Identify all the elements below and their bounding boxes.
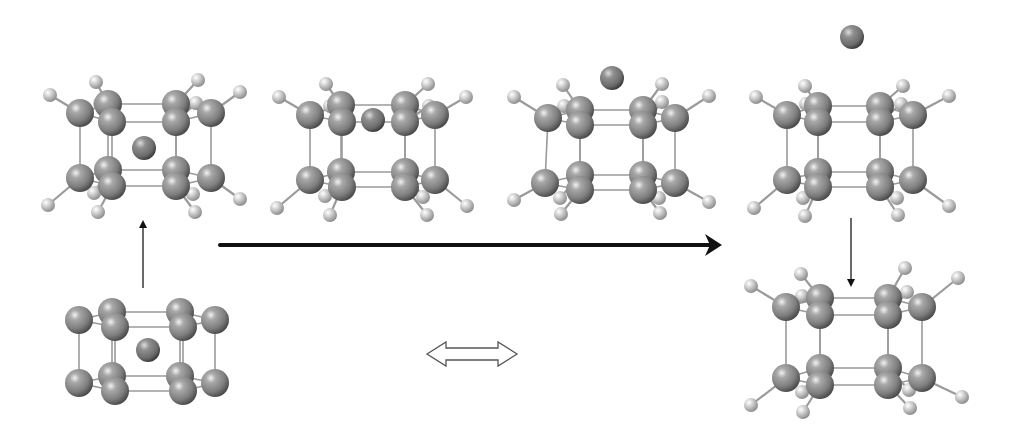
hydrogen-atom — [554, 207, 568, 221]
double-headed-arrow-icon — [427, 342, 517, 366]
carbon-atom — [534, 104, 562, 132]
atoms — [41, 73, 247, 219]
molecule-s2-ion-in-face — [270, 77, 474, 222]
molecule-s4-ion-outside — [747, 25, 956, 223]
carbon-atom — [804, 173, 832, 201]
hydrogen-atom — [896, 79, 910, 93]
hydrogen-atom — [191, 73, 205, 87]
molecule-s3-ion-above — [507, 66, 716, 221]
hydrogen-atom — [747, 201, 761, 215]
hydrogen-atom — [744, 398, 758, 412]
molecule-s6-ion-inside-bare — [65, 298, 229, 405]
hydrogen-atom — [41, 198, 55, 212]
hydrogen-atom — [891, 208, 905, 222]
hydrogen-atom — [507, 193, 521, 207]
carbon-atom — [566, 111, 594, 139]
hydrogen-atom — [744, 279, 758, 293]
carbon-atom — [806, 301, 834, 329]
carbon-atom — [169, 313, 197, 341]
hydrogen-atom — [556, 78, 570, 92]
carbon-atom — [806, 371, 834, 399]
hydrogen-atom — [421, 77, 435, 91]
carbon-atom — [629, 176, 657, 204]
carbon-atom — [804, 108, 832, 136]
hydrogen-atom — [507, 90, 521, 104]
up-arrowhead-icon — [139, 220, 147, 228]
carbon-atom — [98, 172, 126, 200]
carbon-atom — [65, 369, 93, 397]
carbon-atom — [66, 164, 94, 192]
hydrogen-atom — [460, 199, 474, 213]
carbon-atom — [391, 173, 419, 201]
carbon-atom — [162, 108, 190, 136]
hydrogen-atom — [798, 209, 812, 223]
carbon-atom — [421, 166, 449, 194]
carbon-atom — [773, 166, 801, 194]
atoms — [65, 298, 229, 405]
carbon-atom — [866, 173, 894, 201]
carbon-atom — [874, 371, 902, 399]
ion-atom — [840, 25, 864, 49]
carbon-atom — [169, 377, 197, 405]
ion-atom — [361, 108, 385, 132]
down-arrowhead-icon — [847, 279, 855, 287]
carbon-atom — [874, 301, 902, 329]
carbon-atom — [908, 293, 936, 321]
hydrogen-atom — [702, 89, 716, 103]
carbon-atom — [328, 108, 356, 136]
reaction-diagram — [0, 0, 1013, 436]
hydrogen-atom — [653, 206, 667, 220]
hydrogen-atom — [188, 205, 202, 219]
hydrogen-atom — [420, 208, 434, 222]
ion-atom — [600, 66, 624, 90]
carbon-atom — [899, 166, 927, 194]
carbon-atom — [661, 104, 689, 132]
carbon-atom — [866, 108, 894, 136]
hydrogen-atom — [655, 77, 669, 91]
carbon-atom — [201, 306, 229, 334]
hydrogen-atom — [942, 89, 956, 103]
atoms — [507, 66, 716, 221]
hydrogen-atom — [702, 195, 716, 209]
hydrogen-atom — [270, 201, 284, 215]
hydrogen-atom — [319, 77, 333, 91]
hydrogen-atom — [951, 271, 965, 285]
carbon-atom — [899, 101, 927, 129]
carbon-atom — [65, 306, 93, 334]
carbon-atom — [98, 108, 126, 136]
molecule-s5-empty-cage — [744, 261, 969, 419]
carbon-atom — [197, 164, 225, 192]
carbon-atom — [629, 111, 657, 139]
carbon-atom — [162, 172, 190, 200]
carbon-atom — [421, 101, 449, 129]
ion-atom — [132, 136, 156, 160]
carbon-atom — [772, 293, 800, 321]
molecule-s1-ion-inside — [41, 73, 247, 219]
ion-atom — [136, 338, 160, 362]
carbon-atom — [197, 99, 225, 127]
carbon-atom — [772, 364, 800, 392]
hydrogen-atom — [233, 85, 247, 99]
hydrogen-atom — [91, 205, 105, 219]
carbon-atom — [328, 173, 356, 201]
hydrogen-atom — [553, 191, 567, 205]
carbon-atom — [101, 377, 129, 405]
carbon-atom — [391, 108, 419, 136]
atoms — [270, 77, 474, 222]
carbon-atom — [296, 166, 324, 194]
hydrogen-atom — [798, 79, 812, 93]
figure-canvas — [0, 0, 1013, 436]
hydrogen-atom — [903, 401, 917, 415]
hydrogen-atom — [942, 199, 956, 213]
carbon-atom — [566, 176, 594, 204]
carbon-atom — [296, 101, 324, 129]
atoms — [747, 25, 956, 223]
carbon-atom — [201, 369, 229, 397]
hydrogen-atom — [796, 405, 810, 419]
hydrogen-atom — [416, 190, 430, 204]
hydrogen-atom — [794, 267, 808, 281]
hydrogen-atom — [459, 90, 473, 104]
hydrogen-atom — [323, 208, 337, 222]
hydrogen-atom — [272, 90, 286, 104]
carbon-atom — [908, 364, 936, 392]
